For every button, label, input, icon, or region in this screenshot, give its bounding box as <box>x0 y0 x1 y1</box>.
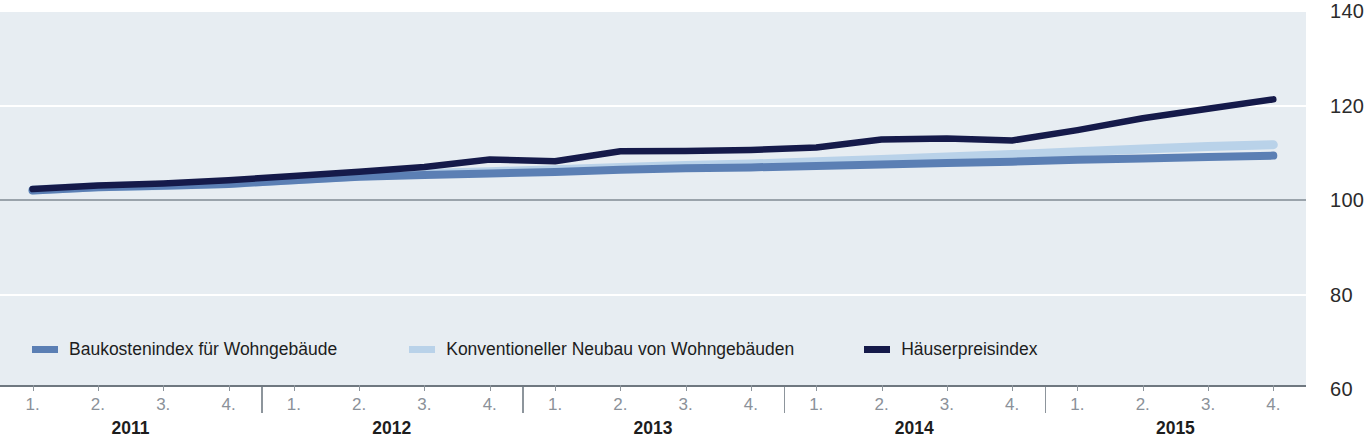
legend-item-baukostenindex: Baukostenindex für Wohngebäude <box>32 339 337 360</box>
x-axis-tick <box>947 385 948 391</box>
legend-swatch-konventioneller-neubau <box>409 346 435 353</box>
x-axis-quarter-label: 2. <box>352 395 366 415</box>
series-lines <box>0 12 1306 385</box>
x-axis-quarter-label: 3. <box>679 395 693 415</box>
chart-legend: Baukostenindex für Wohngebäude Konventio… <box>0 334 1306 364</box>
x-axis-quarter-label: 2. <box>874 395 888 415</box>
x-axis-quarter-label: 4. <box>1266 395 1280 415</box>
x-axis-quarter-label: 3. <box>417 395 431 415</box>
y-axis-label-120: 120 <box>1330 94 1364 117</box>
x-axis-quarter-label: 1. <box>287 395 301 415</box>
legend-item-haeuserpreisindex: Häuserpreisindex <box>864 339 1037 360</box>
y-axis-label-60: 60 <box>1330 378 1353 401</box>
x-axis-line <box>0 385 1306 387</box>
x-axis-tick <box>816 385 817 391</box>
x-axis-quarter-label: 2. <box>91 395 105 415</box>
x-axis-quarter-label: 1. <box>1070 395 1084 415</box>
x-axis-year-separator <box>522 387 524 413</box>
legend-label-konventioneller-neubau: Konventioneller Neubau von Wohngebäuden <box>446 339 794 360</box>
x-axis-tick <box>882 385 883 391</box>
x-axis-quarter-label: 1. <box>809 395 823 415</box>
x-axis-tick <box>620 385 621 391</box>
x-axis-tick <box>359 385 360 391</box>
x-axis-tick <box>98 385 99 391</box>
legend-label-haeuserpreisindex: Häuserpreisindex <box>901 339 1037 360</box>
x-axis-tick <box>229 385 230 391</box>
legend-label-baukostenindex: Baukostenindex für Wohngebäude <box>69 339 337 360</box>
x-axis-year-separator <box>261 387 263 413</box>
x-axis-tick <box>294 385 295 391</box>
x-axis-quarter-label: 2. <box>1136 395 1150 415</box>
y-axis-label-140: 140 <box>1330 0 1364 23</box>
x-axis-tick <box>751 385 752 391</box>
x-axis-quarter-label: 4. <box>1005 395 1019 415</box>
x-axis-tick <box>686 385 687 391</box>
x-axis-tick <box>163 385 164 391</box>
x-axis-tick <box>1143 385 1144 391</box>
legend-item-konventioneller-neubau: Konventioneller Neubau von Wohngebäuden <box>409 339 794 360</box>
x-axis-tick <box>424 385 425 391</box>
x-axis-quarter-label: 4. <box>221 395 235 415</box>
x-axis-quarter-label: 1. <box>548 395 562 415</box>
legend-swatch-baukostenindex <box>32 346 58 353</box>
x-axis-year-label: 2015 <box>1156 418 1195 436</box>
x-axis-quarter-label: 3. <box>940 395 954 415</box>
x-axis-tick <box>1208 385 1209 391</box>
x-axis-year-separator <box>784 387 786 413</box>
line-haeuserpreisindex <box>33 99 1274 189</box>
x-axis-quarter-label: 3. <box>1201 395 1215 415</box>
x-axis-quarter-label: 1. <box>26 395 40 415</box>
x-axis-tick <box>33 385 34 391</box>
x-axis-year-label: 2013 <box>634 418 673 436</box>
x-axis-quarter-label: 4. <box>744 395 758 415</box>
x-axis-year-label: 2014 <box>895 418 934 436</box>
x-axis-tick <box>490 385 491 391</box>
x-axis-quarter-label: 3. <box>156 395 170 415</box>
legend-swatch-haeuserpreisindex <box>864 346 890 353</box>
x-axis-tick <box>1077 385 1078 391</box>
y-axis-label-100: 100 <box>1330 189 1364 212</box>
line-baukostenindex <box>33 156 1274 191</box>
x-axis-quarter-label: 4. <box>483 395 497 415</box>
x-axis-year-separator <box>1045 387 1047 413</box>
x-axis-quarter-label: 2. <box>613 395 627 415</box>
x-axis-year-label: 2011 <box>112 418 150 436</box>
x-axis: 1.2.3.4.1.2.3.4.1.2.3.4.1.2.3.4.1.2.3.4.… <box>0 385 1306 436</box>
x-axis-year-label: 2012 <box>372 418 411 436</box>
x-axis-tick <box>1012 385 1013 391</box>
y-axis-label-80: 80 <box>1330 283 1353 306</box>
x-axis-tick <box>555 385 556 391</box>
x-axis-tick <box>1273 385 1274 391</box>
chart-root: 140 120 100 80 60 Baukostenindex für Woh… <box>0 0 1372 436</box>
